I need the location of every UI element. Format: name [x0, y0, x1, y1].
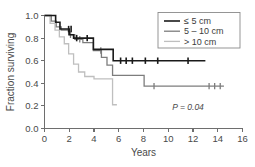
y-axis-tick-label: 0.2 — [25, 100, 38, 111]
legend-label: ≤ 5 cm — [184, 16, 211, 26]
x-axis-tick-label: 8 — [141, 133, 146, 144]
x-axis-tick-label: 14 — [212, 133, 223, 144]
x-axis-tick-label: 10 — [163, 133, 174, 144]
x-axis-tick-label: 16 — [237, 133, 248, 144]
legend-label: > 10 cm — [184, 37, 216, 47]
x-axis-tick-label: 6 — [116, 133, 121, 144]
y-axis-tick-label: 1.0 — [25, 10, 38, 21]
x-axis-title: Years — [131, 147, 156, 158]
x-axis-tick-label: 0 — [42, 133, 47, 144]
legend-label: 5 – 10 cm — [184, 26, 224, 36]
x-axis-tick-label: 2 — [67, 133, 72, 144]
y-axis-tick-label: 0.4 — [25, 78, 38, 89]
x-axis-tick-label: 4 — [91, 133, 96, 144]
p-value-annotation: P = 0.04 — [172, 102, 204, 112]
survival-curve — [45, 16, 117, 105]
y-axis-title: Fraction surviving — [5, 33, 16, 111]
survival-chart: 0.00.20.40.60.81.00246810121416YearsFrac… — [0, 0, 255, 167]
x-axis-tick-label: 12 — [188, 133, 199, 144]
series-2 — [45, 16, 117, 105]
y-axis-tick-label: 0.6 — [25, 55, 38, 66]
y-axis-tick-label: 0.0 — [25, 123, 38, 134]
kaplan-meier-plot: 0.00.20.40.60.81.00246810121416YearsFrac… — [0, 0, 255, 167]
y-axis-tick-label: 0.8 — [25, 33, 38, 44]
